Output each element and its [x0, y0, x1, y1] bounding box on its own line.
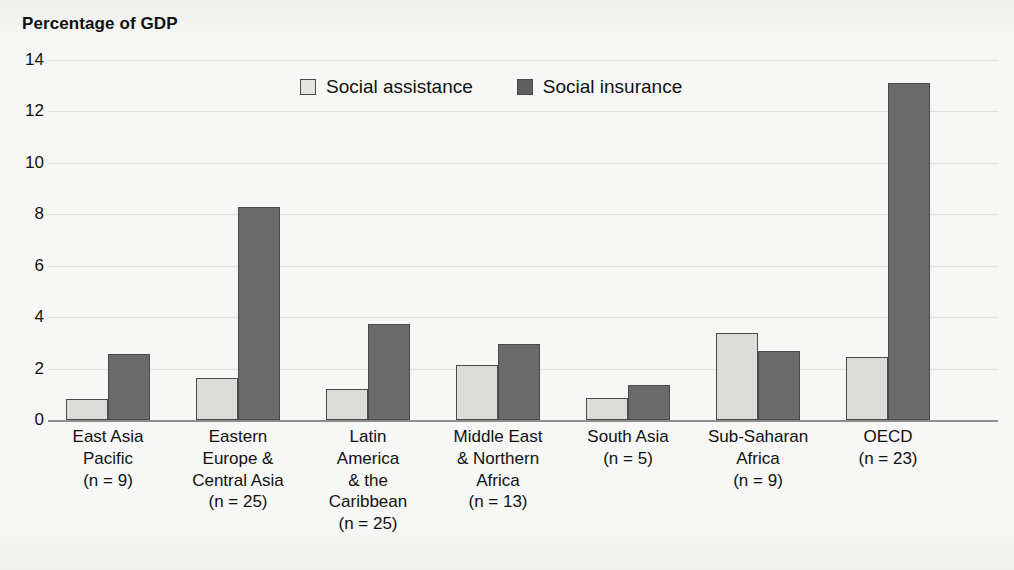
bar-social-assistance[interactable] [716, 333, 758, 420]
y-tick-2: 2 [4, 359, 44, 379]
x-category-label-line: Caribbean [302, 491, 434, 513]
bar-social-insurance[interactable] [108, 354, 150, 420]
bar-social-insurance[interactable] [498, 344, 540, 420]
y-tick-0: 0 [4, 410, 44, 430]
x-axis-line [48, 420, 998, 422]
x-category-label-line: OECD [822, 426, 954, 448]
bar-social-assistance[interactable] [846, 357, 888, 420]
bar-social-insurance[interactable] [888, 83, 930, 420]
bar-group [196, 60, 280, 420]
x-category-label: LatinAmerica& theCaribbean(n = 25) [302, 426, 434, 535]
x-category-label: East AsiaPacific(n = 9) [42, 426, 174, 491]
bar-group [326, 60, 410, 420]
x-category-label-line: Eastern [172, 426, 304, 448]
y-tick-12: 12 [4, 101, 44, 121]
bar-group [586, 60, 670, 420]
bar-group [456, 60, 540, 420]
x-category-label-line: (n = 5) [562, 448, 694, 470]
x-category-label: South Asia(n = 5) [562, 426, 694, 470]
x-category-label-line: East Asia [42, 426, 174, 448]
x-category-label-line: & Northern [432, 448, 564, 470]
bar-social-assistance[interactable] [456, 365, 498, 420]
chart-figure: Percentage of GDP 14121086420 Social ass… [0, 0, 1014, 570]
x-category-label-line: Europe & [172, 448, 304, 470]
x-category-label-line: (n = 9) [692, 470, 824, 492]
x-category-label-line: Africa [692, 448, 824, 470]
y-tick-8: 8 [4, 204, 44, 224]
bar-group [716, 60, 800, 420]
x-category-label-line: Central Asia [172, 470, 304, 492]
x-category-label-line: (n = 25) [302, 513, 434, 535]
bar-group [66, 60, 150, 420]
x-category-label-line: South Asia [562, 426, 694, 448]
x-category-label-line: Latin [302, 426, 434, 448]
legend-item-insurance[interactable]: Social insurance [517, 76, 682, 98]
x-category-label-line: Africa [432, 470, 564, 492]
x-category-label-line: America [302, 448, 434, 470]
x-category-label-line: (n = 13) [432, 491, 564, 513]
bar-social-insurance[interactable] [368, 324, 410, 420]
x-category-label-line: Pacific [42, 448, 174, 470]
bar-social-assistance[interactable] [326, 389, 368, 420]
legend-label: Social assistance [326, 76, 473, 98]
bar-social-assistance[interactable] [66, 399, 108, 420]
x-category-label-line: (n = 25) [172, 491, 304, 513]
legend-item-assistance[interactable]: Social assistance [300, 76, 473, 98]
x-category-label: Sub-SaharanAfrica(n = 9) [692, 426, 824, 491]
legend-swatch-insurance-icon [517, 79, 533, 95]
page-title: Percentage of GDP [22, 14, 178, 34]
x-category-label: Middle East& NorthernAfrica(n = 13) [432, 426, 564, 513]
x-category-label-line: Middle East [432, 426, 564, 448]
bar-social-insurance[interactable] [758, 351, 800, 420]
y-tick-10: 10 [4, 153, 44, 173]
chart-legend: Social assistanceSocial insurance [300, 76, 682, 98]
bar-social-assistance[interactable] [586, 398, 628, 420]
y-tick-14: 14 [4, 50, 44, 70]
y-axis-tick-labels: 14121086420 [0, 60, 44, 420]
bar-social-assistance[interactable] [196, 378, 238, 420]
x-category-label-line: (n = 23) [822, 448, 954, 470]
x-category-label-line: (n = 9) [42, 470, 174, 492]
legend-swatch-assistance-icon [300, 79, 316, 95]
x-category-label-line: & the [302, 470, 434, 492]
bar-social-insurance[interactable] [238, 207, 280, 420]
x-category-label: EasternEurope &Central Asia(n = 25) [172, 426, 304, 513]
x-category-label: OECD(n = 23) [822, 426, 954, 470]
legend-label: Social insurance [543, 76, 682, 98]
y-tick-4: 4 [4, 307, 44, 327]
x-axis-category-labels: East AsiaPacific(n = 9)EasternEurope &Ce… [48, 426, 998, 566]
bar-group [846, 60, 930, 420]
x-category-label-line: Sub-Saharan [692, 426, 824, 448]
y-tick-6: 6 [4, 256, 44, 276]
plot-area [48, 60, 998, 420]
bar-social-insurance[interactable] [628, 385, 670, 420]
